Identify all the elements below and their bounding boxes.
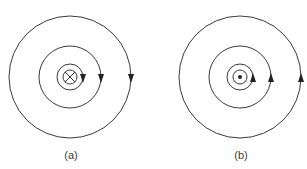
panel-a — [9, 16, 131, 138]
panel-a-label: (a) — [64, 149, 77, 161]
arrow-up-icon — [298, 73, 304, 82]
arrow-down-icon — [98, 74, 104, 83]
arrow-down-icon — [80, 74, 86, 83]
arrow-down-icon — [128, 74, 134, 83]
arrow-up-icon — [268, 73, 274, 82]
magnetic-field-diagram: (a) (b) — [0, 0, 307, 169]
panel-b-arrows — [250, 73, 304, 82]
panel-b-label: (b) — [234, 149, 247, 161]
wire-into-page-icon — [63, 70, 77, 84]
wire-out-of-page-icon — [233, 70, 247, 84]
panel-a-arrows — [80, 74, 134, 83]
arrow-up-icon — [250, 73, 256, 82]
panel-b — [179, 16, 301, 138]
